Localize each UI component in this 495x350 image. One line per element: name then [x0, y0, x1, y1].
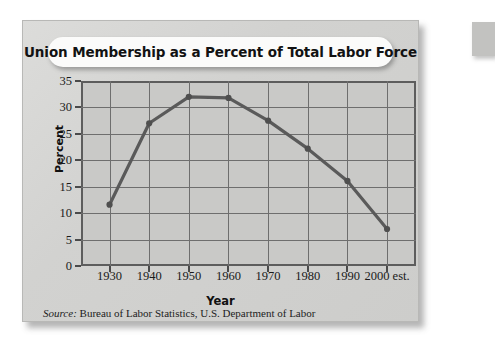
- series-data-point: [106, 202, 112, 208]
- y-tick-label: 10: [41, 206, 81, 221]
- series-data-point: [146, 120, 152, 126]
- source-value: Bureau of Labor Statistics, U.S. Departm…: [77, 307, 316, 319]
- series-data-point: [265, 118, 271, 124]
- chart-title-pill: Union Membership as a Percent of Total L…: [48, 37, 393, 67]
- figure-card: Union Membership as a Percent of Total L…: [22, 20, 419, 322]
- y-tick-label: 25: [41, 126, 81, 141]
- source-label: Source:: [43, 307, 77, 319]
- source-note: Source: Bureau of Labor Statistics, U.S.…: [43, 307, 315, 319]
- series-data-point: [305, 146, 311, 152]
- right-edge-partial-element: [472, 22, 495, 56]
- y-tick-label: 35: [41, 74, 81, 89]
- series-line-path: [110, 97, 388, 229]
- x-tick-label: 2000 est.: [352, 269, 422, 284]
- y-tick-label: 20: [41, 153, 81, 168]
- series-data-point: [186, 94, 192, 100]
- y-tick-label: 5: [41, 232, 81, 247]
- series-data-point: [225, 95, 231, 101]
- plot-wrapper: 0510152025303519301940195019601970198019…: [81, 81, 416, 266]
- y-tick-label: 15: [41, 179, 81, 194]
- x-axis-title: Year: [23, 294, 418, 308]
- line-series: [81, 81, 416, 266]
- y-tick-label: 30: [41, 100, 81, 115]
- series-data-point: [344, 178, 350, 184]
- page-title: Union Membership as a Percent of Total L…: [24, 44, 417, 60]
- series-data-point: [384, 226, 390, 232]
